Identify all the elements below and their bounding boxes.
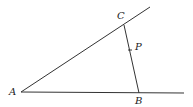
diagram-lines (0, 0, 193, 107)
label-p: P (135, 42, 142, 52)
geometry-diagram: A B C P (0, 0, 193, 107)
label-a: A (9, 87, 16, 97)
ray-ab (21, 92, 184, 93)
label-c: C (117, 11, 125, 21)
label-b: B (135, 96, 142, 106)
segment-cb (124, 25, 139, 93)
